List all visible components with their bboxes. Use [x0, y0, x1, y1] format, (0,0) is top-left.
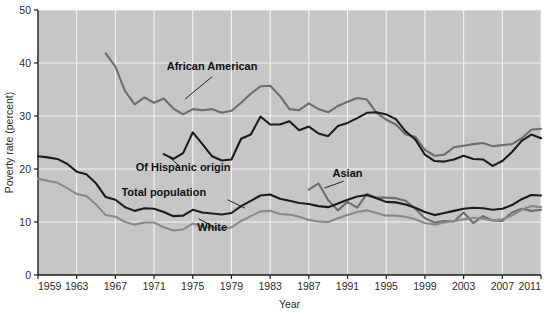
x-axis-title: Year — [279, 298, 301, 310]
x-tick-label: 1983 — [258, 280, 282, 292]
y-tick-label: 30 — [19, 110, 31, 122]
poverty-rate-chart: 0102030405019591963196719711975197919831… — [0, 0, 549, 316]
x-tick-label: 1979 — [220, 280, 244, 292]
x-tick-label: 2003 — [452, 280, 476, 292]
x-tick-label: 2011 — [518, 280, 541, 292]
plot-background — [38, 10, 541, 275]
x-tick-label: 1971 — [142, 280, 166, 292]
series-label-of-hispanic-origin: Of Hispanic origin — [136, 161, 231, 173]
x-tick-label: 1959 — [38, 280, 62, 292]
chart-canvas: 0102030405019591963196719711975197919831… — [0, 0, 549, 316]
y-tick-label: 20 — [19, 163, 31, 175]
series-label-white: White — [197, 221, 227, 233]
y-tick-label: 10 — [19, 216, 31, 228]
x-tick-label: 1963 — [65, 280, 89, 292]
series-label-total-population: Total population — [121, 186, 206, 198]
series-label-african-american: African American — [167, 60, 258, 72]
y-tick-label: 40 — [19, 57, 31, 69]
x-tick-label: 1999 — [413, 280, 437, 292]
series-label-asian: Asian — [333, 167, 363, 179]
y-tick-label: 50 — [19, 4, 31, 16]
x-tick-label: 2007 — [491, 280, 515, 292]
x-tick-label: 1991 — [336, 280, 360, 292]
x-tick-label: 1967 — [104, 280, 128, 292]
x-tick-label: 1987 — [297, 280, 321, 292]
x-tick-label: 1975 — [181, 280, 205, 292]
y-axis-title: Poverty rate (percent) — [3, 92, 15, 194]
y-tick-label: 0 — [25, 269, 31, 281]
x-tick-label: 1995 — [375, 280, 399, 292]
